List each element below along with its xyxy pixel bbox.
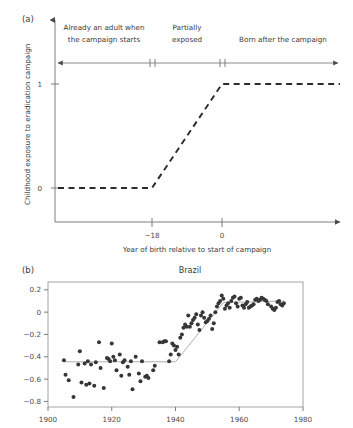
scatter-point	[110, 341, 114, 345]
scatter-point	[228, 306, 232, 310]
scatter-point	[221, 297, 225, 301]
panel-b-ytick-label: −0.4	[24, 352, 42, 361]
panel-a-schematic: (a) 0 1 −18	[0, 0, 353, 255]
panel-b-scatter: (b) Brazil 0.20−0.2−0.4−0.6−0.8 19001920…	[0, 255, 353, 428]
scatter-point	[177, 353, 181, 357]
scatter-point	[180, 332, 184, 336]
panel-b-scatter-points	[62, 293, 286, 399]
panel-b-ytick-label: 0	[36, 308, 41, 317]
panel-a-label: (a)	[22, 14, 34, 24]
scatter-point	[113, 358, 117, 362]
scatter-point	[118, 353, 122, 357]
scatter-point	[102, 386, 106, 390]
scatter-point	[194, 312, 198, 316]
panel-a-y-axis-title: Childhood exposure to eradication campai…	[23, 44, 32, 205]
scatter-point	[153, 364, 157, 368]
scatter-point	[97, 340, 101, 344]
panel-b-ytick-label: −0.8	[24, 397, 42, 406]
scatter-point	[236, 305, 240, 309]
panel-a-region-label-2-line1: Born after the campaign	[239, 35, 327, 44]
panel-b-x-ticks: 19001920194019601980	[39, 407, 313, 424]
scatter-point	[76, 363, 80, 367]
scatter-point	[138, 379, 142, 383]
scatter-point	[89, 363, 93, 367]
panel-a-region-label-0-line1: Already an adult when	[64, 23, 145, 32]
scatter-point	[212, 321, 216, 325]
scatter-point	[94, 360, 98, 364]
scatter-point	[239, 296, 243, 300]
scatter-point	[127, 373, 131, 377]
scatter-point	[99, 366, 103, 370]
scatter-point	[129, 359, 133, 363]
scatter-point	[115, 368, 119, 372]
panel-a-xtick-label-minus18: −18	[144, 231, 160, 240]
panel-b-xtick-label: 1940	[166, 415, 185, 424]
scatter-point	[197, 328, 201, 332]
scatter-point	[169, 353, 173, 357]
scatter-point	[186, 313, 190, 317]
scatter-point	[108, 359, 112, 363]
scatter-point	[274, 306, 278, 310]
panel-a-exposure-curve	[58, 84, 340, 188]
scatter-point	[87, 382, 91, 386]
scatter-point	[119, 374, 123, 378]
scatter-point	[137, 372, 141, 376]
panel-b-y-ticks: 0.20−0.2−0.4−0.6−0.8	[24, 285, 48, 406]
panel-a-x-axis-title: Year of birth relative to start of campa…	[122, 245, 271, 254]
panel-a-ytick-label-1: 1	[37, 80, 42, 89]
scatter-point	[245, 300, 249, 304]
scatter-point	[252, 302, 256, 306]
scatter-point	[72, 395, 76, 399]
scatter-point	[79, 380, 83, 384]
scatter-point	[86, 359, 90, 363]
scatter-point	[209, 313, 213, 317]
scatter-point	[232, 295, 236, 299]
panel-a-region-label-1-line1: Partially	[173, 23, 203, 32]
scatter-point	[282, 301, 286, 305]
scatter-point	[123, 358, 127, 362]
panel-b-ytick-label: 0.2	[30, 285, 41, 294]
figure-container: (a) 0 1 −18	[0, 0, 353, 428]
scatter-point	[210, 327, 214, 331]
scatter-point	[140, 359, 144, 363]
panel-a-region-label-0-line2: the campaign starts	[68, 35, 141, 44]
scatter-point	[126, 365, 130, 369]
panel-a-region-label-1-line2: exposed	[172, 35, 202, 44]
scatter-point	[213, 310, 217, 314]
scatter-point	[164, 339, 168, 343]
scatter-point	[67, 378, 71, 382]
panel-a-svg: (a) 0 1 −18	[0, 0, 353, 255]
panel-a-xtick-label-zero: 0	[220, 231, 225, 240]
panel-b-ytick-label: −0.6	[24, 375, 42, 384]
scatter-point	[167, 359, 171, 363]
panel-b-xtick-label: 1900	[39, 415, 58, 424]
scatter-point	[64, 373, 68, 377]
panel-b-ytick-label: −0.2	[24, 330, 41, 339]
scatter-point	[92, 384, 96, 388]
panel-b-label: (b)	[22, 265, 34, 275]
panel-b-fit-line	[64, 301, 284, 362]
scatter-point	[151, 368, 155, 372]
scatter-point	[202, 316, 206, 320]
scatter-point	[175, 345, 179, 349]
scatter-point	[130, 387, 134, 391]
scatter-point	[196, 322, 200, 326]
scatter-point	[146, 376, 150, 380]
panel-b-title: Brazil	[179, 266, 201, 275]
panel-b-svg: (b) Brazil 0.20−0.2−0.4−0.6−0.8 19001920…	[0, 255, 353, 428]
scatter-point	[78, 349, 82, 353]
scatter-point	[134, 355, 138, 359]
scatter-point	[201, 310, 205, 314]
panel-a-ytick-label-0: 0	[37, 184, 42, 193]
panel-b-xtick-label: 1980	[294, 415, 313, 424]
panel-b-xtick-label: 1920	[103, 415, 122, 424]
panel-b-xtick-label: 1960	[230, 415, 249, 424]
scatter-point	[62, 358, 66, 362]
